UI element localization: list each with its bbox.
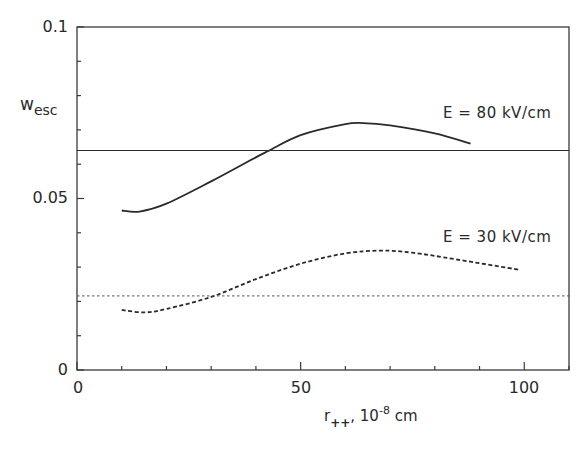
series-80kv-curve — [122, 123, 471, 212]
x-tick-label: 100 — [494, 378, 554, 397]
y-tick-label: 0 — [8, 360, 68, 379]
plot-frame — [77, 27, 569, 370]
x-axis-label: r++, 10-8 cm — [324, 404, 418, 430]
x-tick-label: 50 — [271, 378, 331, 397]
x-tick-label: 0 — [48, 378, 108, 397]
y-tick-label: 0.1 — [8, 17, 68, 36]
y-tick-label: 0.05 — [8, 188, 68, 207]
chart: 0.1 0.05 0 0 50 100 wesc r++, 10-8 cm E … — [0, 0, 588, 450]
series-annotation-80kv: E = 80 kV/cm — [443, 104, 551, 122]
series-30kv-curve — [122, 251, 520, 313]
y-axis-label: wesc — [20, 94, 58, 118]
series-annotation-30kv: E = 30 kV/cm — [443, 228, 551, 246]
